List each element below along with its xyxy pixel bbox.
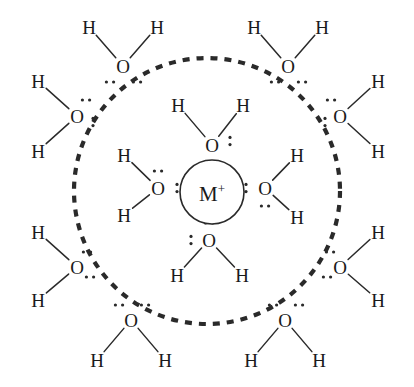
- lone-pair-dot: [228, 143, 231, 146]
- lone-pair-dot: [112, 80, 115, 83]
- lone-pair-outer: [322, 275, 332, 278]
- hydrogen-label: H: [117, 206, 131, 225]
- oh-bond: [46, 274, 68, 293]
- lone-pair-dot: [175, 190, 178, 193]
- lone-pair-dot: [304, 80, 307, 83]
- oh-bond: [130, 35, 150, 57]
- lone-pair-dot: [326, 98, 329, 101]
- lone-pair-outer: [297, 80, 307, 83]
- oh-bond: [184, 248, 201, 267]
- lone-pair-dot: [189, 242, 192, 245]
- hydrogen-label: H: [371, 72, 385, 91]
- lone-pair-dot: [91, 124, 94, 127]
- lone-pair-dot: [121, 303, 124, 306]
- oh-bond: [219, 114, 237, 137]
- oxygen-label: O: [70, 258, 84, 277]
- oh-bond: [258, 328, 278, 351]
- lone-pair-dot: [160, 169, 163, 172]
- hydrogen-label: H: [31, 72, 45, 91]
- hydrogen-label: H: [371, 223, 385, 242]
- oh-bond: [133, 195, 150, 208]
- hydrogen-label: H: [247, 18, 261, 37]
- ion-charge: +: [218, 181, 225, 196]
- lone-pair-inner: [153, 169, 163, 172]
- hydrogen-label: H: [170, 266, 184, 285]
- oxygen-label: O: [333, 258, 347, 277]
- oh-bond: [104, 328, 124, 351]
- oxygen-label: O: [124, 311, 138, 330]
- lone-pair-dot: [175, 183, 178, 186]
- lone-pair-dot: [85, 275, 88, 278]
- lone-pair-outer: [114, 303, 124, 306]
- lone-pair-dot: [267, 204, 270, 207]
- oh-bond: [217, 248, 235, 267]
- hydrogen-label: H: [312, 351, 326, 370]
- oh-bond: [46, 123, 69, 143]
- lone-pair-dot: [81, 98, 84, 101]
- lone-pair-dot: [260, 204, 263, 207]
- hydrogen-label: H: [150, 18, 164, 37]
- oxygen-label: O: [70, 107, 84, 126]
- oxygen-label: O: [205, 136, 219, 155]
- oh-bond: [46, 88, 69, 108]
- lone-pair-inner: [228, 136, 231, 146]
- lone-pair-dot: [323, 124, 326, 127]
- lone-pair-dot: [332, 250, 335, 253]
- lone-pair-outer: [105, 80, 115, 83]
- lone-pair-dot: [275, 303, 278, 306]
- lone-pair-dot: [82, 250, 85, 253]
- lone-pair-dot: [301, 303, 304, 306]
- lone-pair-outer: [326, 98, 336, 101]
- oxygen-label: O: [333, 107, 347, 126]
- lone-pair-dot: [139, 80, 142, 83]
- lone-pair-dot: [244, 190, 247, 193]
- hydrogen-label: H: [82, 18, 96, 37]
- lone-pair-dot: [189, 235, 192, 238]
- lone-pair-dot: [140, 303, 143, 306]
- hydrogen-label: H: [290, 208, 304, 227]
- oh-bond: [273, 163, 290, 180]
- lone-pair-outer: [323, 117, 326, 127]
- lone-pair-outer: [81, 98, 91, 101]
- lone-pair-dot: [105, 80, 108, 83]
- oh-bond: [185, 113, 205, 136]
- oh-bond: [348, 239, 370, 259]
- oh-bond: [292, 328, 312, 351]
- lone-pair-inner: [244, 183, 247, 193]
- lone-pair-dot: [323, 117, 326, 120]
- lone-pair-dot: [88, 98, 91, 101]
- ion-symbol: M: [199, 182, 218, 206]
- hydrogen-label: H: [90, 351, 104, 370]
- hydrogen-label: H: [31, 223, 45, 242]
- hydrogen-label: H: [371, 291, 385, 310]
- oxygen-label: O: [116, 57, 130, 76]
- lone-pair-outer: [85, 275, 95, 278]
- lone-pair-dot: [297, 80, 300, 83]
- lone-pair-outer: [140, 303, 150, 306]
- hydrogen-label: H: [244, 351, 258, 370]
- lone-pair-dot: [333, 98, 336, 101]
- oxygen-label: O: [281, 57, 295, 76]
- oh-bond: [132, 163, 150, 181]
- lone-pair-dot: [228, 136, 231, 139]
- hydrogen-label: H: [235, 266, 249, 285]
- oh-bond: [96, 35, 116, 57]
- solvation-diagram: OHHOHHOHHOHHOHHOHHOHHOHHOHHOHHOHHOHHM+: [0, 0, 414, 387]
- oh-bond: [261, 35, 281, 57]
- oh-bond: [273, 195, 289, 209]
- central-ion-label: M+: [199, 182, 225, 205]
- oh-bond: [295, 35, 315, 57]
- oxygen-label: O: [151, 179, 165, 198]
- oh-bond: [348, 88, 370, 108]
- lone-pair-dot: [270, 80, 273, 83]
- oh-bond: [138, 328, 158, 351]
- lone-pair-dot: [329, 275, 332, 278]
- oxygen-label: O: [278, 311, 292, 330]
- lone-pair-inner: [175, 183, 178, 193]
- hydrogen-label: H: [315, 18, 329, 37]
- oh-bond: [46, 239, 69, 259]
- oxygen-label: O: [258, 179, 272, 198]
- hydrogen-label: H: [236, 96, 250, 115]
- hydrogen-label: H: [31, 291, 45, 310]
- lone-pair-dot: [294, 303, 297, 306]
